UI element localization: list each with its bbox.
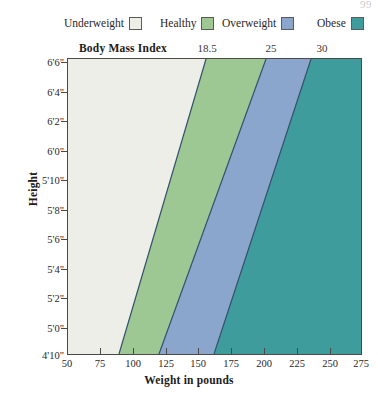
y-tickmark-5-6: [61, 239, 67, 240]
y-tickmark-5-0: [61, 328, 67, 329]
x-tick-225: 225: [289, 358, 305, 369]
legend-swatch-obese: [351, 17, 364, 30]
x-tickmark-100: [133, 348, 134, 355]
page-number: 99: [360, 0, 372, 10]
legend-swatch-overweight: [281, 17, 294, 30]
x-tickmark-125: [166, 348, 167, 355]
x-tick-75: 75: [95, 358, 106, 369]
bmi-threshold-18-5: 18.5: [197, 42, 216, 54]
x-tickmark-75: [100, 348, 101, 355]
y-tickmark-5-2: [61, 298, 67, 299]
legend-label-obese: Obese: [317, 18, 346, 30]
x-tickmark-250: [330, 348, 331, 355]
plot-area: [67, 58, 362, 355]
legend-label-underweight: Underweight: [64, 18, 124, 30]
bmi-bands-svg: [68, 59, 361, 354]
x-tick-275: 275: [353, 358, 369, 369]
y-tickmark-5-10: [61, 180, 67, 181]
x-tick-150: 150: [190, 358, 206, 369]
x-tick-175: 175: [223, 358, 239, 369]
y-tickmark-6-4: [61, 92, 67, 93]
x-tick-200: 200: [256, 358, 272, 369]
legend-label-overweight: Overweight: [222, 18, 276, 30]
bmi-chart-figure: 99 Underweight Healthy Overweight Obese …: [0, 0, 378, 400]
legend-label-healthy: Healthy: [160, 18, 196, 30]
x-axis-title: Weight in pounds: [0, 374, 378, 386]
x-tick-50: 50: [62, 358, 73, 369]
y-tickmark-6-6: [61, 62, 67, 63]
y-tickmark-5-8: [61, 210, 67, 211]
bmi-threshold-25: 25: [266, 42, 277, 54]
x-tick-125: 125: [158, 358, 174, 369]
legend-item-overweight: Overweight: [222, 17, 294, 30]
x-tickmark-225: [297, 348, 298, 355]
y-tickmark-5-4: [61, 269, 67, 270]
x-tick-100: 100: [125, 358, 141, 369]
bmi-header-title: Body Mass Index: [79, 42, 167, 54]
y-tickmark-6-2: [61, 121, 67, 122]
legend-item-healthy: Healthy: [160, 17, 214, 30]
y-tickmark-6-0: [61, 151, 67, 152]
bmi-threshold-30: 30: [317, 42, 328, 54]
legend-item-underweight: Underweight: [64, 17, 142, 30]
x-tick-250: 250: [322, 358, 338, 369]
x-tickmark-150: [198, 348, 199, 355]
legend-item-obese: Obese: [317, 17, 364, 30]
legend-swatch-underweight: [129, 17, 142, 30]
legend-swatch-healthy: [201, 17, 214, 30]
y-tick-4-10: 4'10": [42, 350, 64, 361]
x-tickmark-175: [231, 348, 232, 355]
y-axis-title: Height: [27, 172, 39, 206]
x-tickmark-200: [264, 348, 265, 355]
